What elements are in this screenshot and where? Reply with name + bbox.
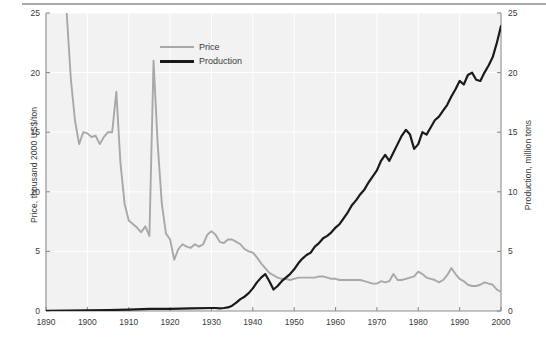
- y-tick-label-left: 10: [18, 187, 40, 197]
- plot-background: [46, 13, 501, 311]
- y-tick-label-left: 20: [18, 68, 40, 78]
- y-tick-label-left: 5: [18, 246, 40, 256]
- y-tick-label-right: 25: [508, 8, 532, 18]
- y-axis-left-title: Price, thousand 2000 US$/ton: [29, 65, 39, 265]
- chart-plot-area: [0, 0, 546, 347]
- y-tick-label-left: 15: [18, 127, 40, 137]
- x-tick-label: 1990: [440, 317, 480, 327]
- chart-figure: Price, thousand 2000 US$/ton Production,…: [0, 0, 546, 347]
- y-tick-label-right: 20: [508, 68, 532, 78]
- y-tick-label-left: 25: [18, 8, 40, 18]
- y-tick-label-right: 5: [508, 246, 532, 256]
- y-axis-right-title: Production, million tons: [523, 65, 533, 265]
- x-tick-label: 1940: [233, 317, 273, 327]
- legend-swatch-price: [160, 46, 194, 48]
- y-tick-label-right: 0: [508, 306, 532, 316]
- top-divider-rule: [22, 3, 546, 5]
- legend-label-price: Price: [199, 42, 220, 52]
- x-tick-label: 1980: [398, 317, 438, 327]
- x-tick-label: 2000: [481, 317, 521, 327]
- x-tick-label: 1950: [274, 317, 314, 327]
- y-tick-label-left: 0: [18, 306, 40, 316]
- x-tick-label: 1920: [150, 317, 190, 327]
- y-tick-label-right: 15: [508, 127, 532, 137]
- y-tick-label-right: 10: [508, 187, 532, 197]
- x-tick-label: 1910: [109, 317, 149, 327]
- x-tick-label: 1890: [26, 317, 66, 327]
- x-tick-label: 1930: [191, 317, 231, 327]
- x-tick-label: 1960: [316, 317, 356, 327]
- x-tick-label: 1900: [67, 317, 107, 327]
- x-tick-label: 1970: [357, 317, 397, 327]
- legend-label-production: Production: [199, 56, 242, 66]
- legend-swatch-production: [160, 60, 194, 63]
